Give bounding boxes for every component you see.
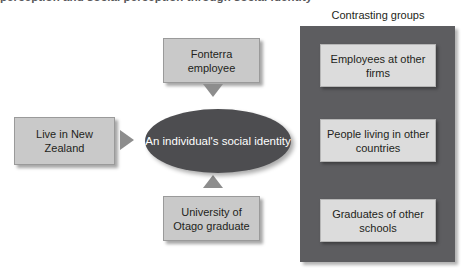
contrast-box-people-other-countries: People living in other countries (320, 119, 436, 162)
attribute-box-fonterra-employee: Fonterra employee (163, 38, 260, 83)
page-running-title: perception and social perception through… (0, 0, 340, 4)
contrast-box-label: People living in other countries (321, 127, 435, 155)
arrow-down-icon (203, 84, 223, 97)
arrow-up-icon (203, 175, 223, 188)
contrast-box-label: Employees at other firms (321, 52, 435, 80)
central-ellipse-label: An individual's social identity (145, 134, 290, 149)
attribute-box-university-of-otago-graduate: University of Otago graduate (163, 196, 260, 241)
contrast-box-graduates-other-schools: Graduates of other schools (320, 199, 436, 242)
attribute-box-label: Fonterra employee (164, 47, 259, 75)
contrasting-groups-caption: Contrasting groups (300, 8, 456, 22)
contrast-box-employees-other-firms: Employees at other firms (320, 44, 436, 87)
attribute-box-label: University of Otago graduate (164, 205, 259, 233)
attribute-box-label: Live in New Zealand (15, 127, 114, 155)
arrow-right-icon (120, 130, 134, 150)
attribute-box-live-in-new-zealand: Live in New Zealand (14, 117, 115, 165)
diagram-canvas: perception and social perception through… (0, 0, 461, 271)
central-ellipse-social-identity: An individual's social identity (145, 109, 291, 173)
contrast-box-label: Graduates of other schools (321, 207, 435, 235)
